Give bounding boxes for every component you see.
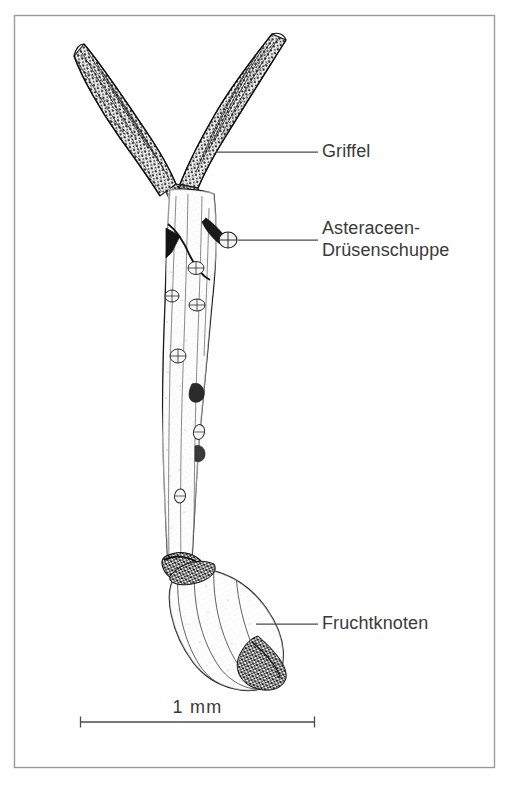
- label-glandular-scale-line2: Drüsenschuppe: [322, 240, 449, 260]
- label-griffel: Griffel: [322, 140, 370, 162]
- figure-canvas: Griffel Asteraceen-Drüsenschuppe Fruchtk…: [0, 0, 508, 785]
- stigma-branch-left: [66, 44, 176, 196]
- scale-bar-label: 1 mm: [80, 697, 315, 718]
- scale-bar: [80, 717, 315, 728]
- stigma-branch-right: [180, 33, 286, 188]
- ovary: [158, 556, 298, 702]
- leader-lines: [216, 152, 318, 624]
- label-ovary: Fruchtknoten: [322, 612, 428, 634]
- label-glandular-scale-line1: Asteraceen-: [322, 218, 420, 238]
- style-shaft: [160, 186, 237, 572]
- botanical-illustration: [0, 0, 508, 785]
- label-glandular-scale: Asteraceen-Drüsenschuppe: [322, 217, 449, 261]
